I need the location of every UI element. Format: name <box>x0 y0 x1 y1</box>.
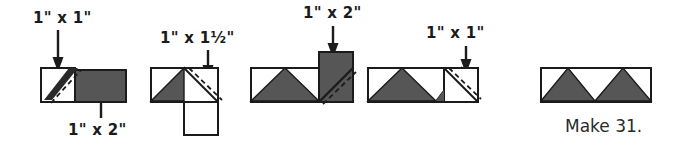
arrow-down-to-square <box>53 30 64 72</box>
label-top-rectangle: 1" x 1½" <box>160 29 235 47</box>
dark-rectangle-base <box>75 70 126 102</box>
label-top-dark-rectangle: 1" x 2" <box>303 4 362 22</box>
step-2-add-square: 1" x 1½" <box>140 0 260 151</box>
light-square-flap <box>184 101 218 135</box>
step-5-finished-unit: Make 31. <box>515 0 685 151</box>
label-bottom-rectangle: 1" x 2" <box>68 121 127 139</box>
quilting-piecing-diagram: 1" x 1" 1" x 2" 1" x 1½" <box>0 0 685 151</box>
make-count-caption: Make 31. <box>565 116 642 136</box>
label-top-square: 1" x 1" <box>33 9 92 27</box>
step-2-graphic <box>140 0 260 151</box>
dark-rectangle-overlay <box>319 52 353 102</box>
step-4-graphic <box>360 0 525 151</box>
step-1-square-on-rectangle: 1" x 1" 1" x 2" <box>0 0 150 151</box>
step-4-add-final-square: 1" x 1" <box>360 0 525 151</box>
label-top-final-square: 1" x 1" <box>426 24 485 42</box>
